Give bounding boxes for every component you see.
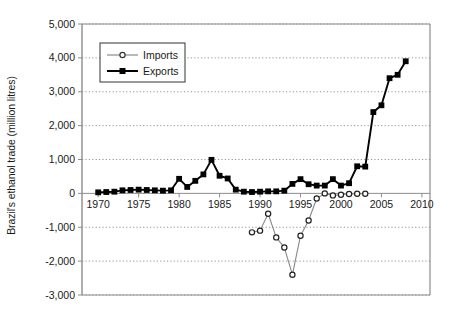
- data-point-imports-1998: [322, 191, 327, 196]
- data-point-imports-2001: [346, 191, 351, 196]
- y-tick-label--1000: -1,000: [45, 221, 75, 233]
- data-point-imports-1990: [257, 228, 262, 233]
- chart-figure: Brazil's ethanol trade (million litres) …: [0, 0, 456, 311]
- data-point-exports-1970: [95, 189, 101, 195]
- data-point-exports-1977: [152, 187, 158, 193]
- data-point-exports-1999: [330, 176, 336, 182]
- data-point-imports-1997: [314, 196, 319, 201]
- data-point-imports-2002: [355, 191, 360, 196]
- data-point-exports-2001: [346, 180, 352, 186]
- data-point-imports-1989: [249, 230, 254, 235]
- data-point-exports-2007: [395, 72, 401, 78]
- data-point-exports-1983: [200, 172, 206, 178]
- y-tick-label--2000: -2,000: [45, 255, 75, 267]
- chart-legend: Imports Exports: [100, 43, 185, 82]
- data-point-imports-1996: [306, 218, 311, 223]
- data-point-imports-2003: [363, 191, 368, 196]
- data-point-exports-1997: [314, 183, 320, 189]
- data-point-exports-1980: [176, 176, 182, 182]
- data-point-exports-1991: [265, 188, 271, 194]
- data-point-exports-1981: [184, 184, 190, 190]
- data-point-imports-1991: [266, 211, 271, 216]
- data-point-imports-1993: [282, 245, 287, 250]
- x-axis-ticks: 197019751980198519901995200020052010: [87, 193, 434, 210]
- data-point-exports-1982: [192, 178, 198, 184]
- y-tick-label-3000: 3,000: [49, 85, 75, 97]
- data-point-exports-1985: [217, 173, 223, 179]
- legend-label-imports: Imports: [143, 49, 178, 61]
- x-tick-label-1980: 1980: [167, 198, 191, 210]
- y-tick-label-5000: 5,000: [49, 18, 75, 30]
- data-point-exports-1989: [249, 189, 255, 195]
- data-point-exports-1979: [168, 187, 174, 193]
- data-point-exports-1972: [111, 189, 117, 195]
- x-tick-label-1975: 1975: [127, 198, 151, 210]
- data-point-exports-1992: [273, 188, 279, 194]
- x-tick-label-2010: 2010: [410, 198, 434, 210]
- y-tick-label-1000: 1,000: [49, 153, 75, 165]
- data-point-exports-1976: [144, 187, 150, 193]
- data-point-exports-2008: [403, 58, 409, 64]
- data-point-exports-2002: [354, 163, 360, 169]
- data-point-exports-1971: [103, 189, 109, 195]
- y-tick-label-2000: 2,000: [49, 119, 75, 131]
- data-point-exports-1995: [298, 176, 304, 182]
- legend-marker-exports-filled-square-icon: [120, 68, 126, 74]
- y-axis-title: Brazil's ethanol trade (million litres): [0, 0, 22, 311]
- y-tick-label--3000: -3,000: [45, 289, 75, 301]
- ethanol-trade-line-chart: -3,000-2,000-1,00001,0002,0003,0004,0005…: [0, 0, 456, 311]
- data-point-exports-1996: [306, 181, 312, 187]
- x-tick-label-1995: 1995: [289, 198, 313, 210]
- data-point-imports-1992: [274, 235, 279, 240]
- data-point-exports-1994: [290, 181, 296, 187]
- data-point-imports-1994: [290, 272, 295, 277]
- data-point-exports-2004: [370, 109, 376, 115]
- data-point-exports-2006: [387, 75, 393, 81]
- x-tick-label-2000: 2000: [329, 198, 353, 210]
- data-point-imports-1999: [330, 193, 335, 198]
- legend-label-exports: Exports: [143, 65, 179, 77]
- y-tick-label-4000: 4,000: [49, 51, 75, 63]
- legend-marker-imports-open-circle-icon: [120, 52, 125, 57]
- x-tick-label-1985: 1985: [208, 198, 232, 210]
- data-point-exports-1986: [225, 176, 231, 182]
- data-point-exports-1988: [241, 189, 247, 195]
- data-point-exports-1973: [120, 187, 126, 193]
- data-point-exports-1987: [233, 187, 239, 193]
- data-point-exports-1975: [136, 187, 142, 193]
- y-axis-ticks: -3,000-2,000-1,00001,0002,0003,0004,0005…: [45, 18, 82, 301]
- x-tick-label-1970: 1970: [87, 198, 111, 210]
- data-point-imports-1995: [298, 233, 303, 238]
- data-point-exports-1978: [160, 188, 166, 194]
- data-point-exports-1990: [257, 189, 263, 195]
- data-point-exports-1998: [322, 183, 328, 189]
- data-point-exports-2005: [379, 102, 385, 108]
- data-point-imports-2000: [338, 192, 343, 197]
- data-point-exports-2000: [338, 183, 344, 189]
- y-tick-label-0: 0: [69, 187, 75, 199]
- data-point-exports-1984: [209, 157, 215, 163]
- x-tick-label-1990: 1990: [248, 198, 272, 210]
- data-point-exports-2003: [362, 164, 368, 170]
- data-point-exports-1993: [281, 188, 287, 194]
- x-tick-label-2005: 2005: [370, 198, 394, 210]
- data-point-exports-1974: [128, 187, 134, 193]
